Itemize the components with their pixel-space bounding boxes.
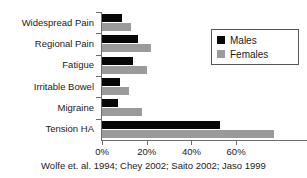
- y-axis-tick: [96, 33, 102, 34]
- x-axis-tick-label: 60%: [227, 146, 246, 157]
- bar-females: [102, 44, 151, 52]
- x-axis-tick: [147, 141, 148, 145]
- legend-item-females[interactable]: Females: [217, 47, 294, 61]
- bar-females: [102, 87, 129, 95]
- y-axis-tick: [96, 119, 102, 120]
- bar-males: [102, 14, 122, 22]
- bar-group: [102, 76, 307, 97]
- bar-males: [102, 35, 138, 43]
- legend-swatch-icon: [217, 50, 225, 58]
- legend-label: Males: [230, 35, 257, 46]
- bar-males: [102, 78, 120, 86]
- bar-males: [102, 99, 118, 107]
- x-axis-tick-label: 0%: [95, 146, 109, 157]
- bar-group: [102, 97, 307, 118]
- bar-females: [102, 108, 142, 116]
- x-axis-tick: [191, 141, 192, 145]
- bar-females: [102, 23, 131, 31]
- category-label: Widespread Pain: [22, 17, 94, 28]
- x-axis-tick: [102, 141, 103, 145]
- y-axis-tick: [96, 55, 102, 56]
- x-axis-tick-label: 20%: [137, 146, 156, 157]
- legend-item-males[interactable]: Males: [217, 33, 294, 47]
- legend-label: Females: [230, 49, 268, 60]
- y-axis-tick: [96, 12, 102, 13]
- y-axis-tick: [96, 76, 102, 77]
- category-label: Regional Pain: [35, 38, 94, 49]
- y-axis-tick: [96, 97, 102, 98]
- chart-caption: Wolfe et. al. 1994; Chey 2002; Saito 200…: [0, 160, 307, 171]
- category-label: Migraine: [58, 102, 94, 113]
- bar-males: [102, 121, 220, 129]
- bar-females: [102, 130, 274, 138]
- category-label: Tension HA: [45, 123, 94, 134]
- category-label: Fatigue: [62, 59, 94, 70]
- bar-chart: Widespread PainRegional PainFatigueIrrit…: [0, 0, 307, 178]
- legend-swatch-icon: [217, 36, 225, 44]
- bar-females: [102, 66, 147, 74]
- bar-males: [102, 57, 133, 65]
- x-axis-tick-label: 40%: [182, 146, 201, 157]
- chart-legend: MalesFemales: [211, 29, 299, 65]
- x-axis-line: [101, 140, 307, 141]
- bar-group: [102, 119, 307, 140]
- category-label: Irritable Bowel: [34, 81, 94, 92]
- category-axis-labels: Widespread PainRegional PainFatigueIrrit…: [0, 12, 98, 140]
- x-axis-tick: [236, 141, 237, 145]
